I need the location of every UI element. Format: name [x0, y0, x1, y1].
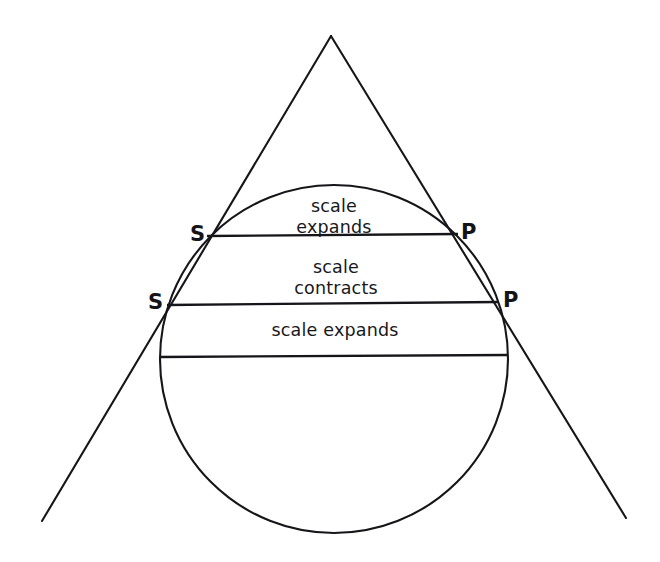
figure-canvas: S P S P scale expands scale contracts sc… — [0, 0, 660, 562]
label-s-lower: S — [148, 292, 163, 313]
band-label-scale-contracts: scale contracts — [294, 257, 378, 298]
label-p-lower: P — [503, 290, 518, 311]
left-tangent-ray — [42, 36, 331, 521]
chord-equator — [160, 355, 508, 357]
label-p-upper: P — [461, 222, 476, 243]
label-s-upper: S — [190, 224, 205, 245]
chord-sp-lower — [167, 302, 498, 305]
band-label-scale-expands-bottom: scale expands — [271, 320, 398, 341]
band-label-scale-expands-top: scale expands — [296, 196, 371, 237]
